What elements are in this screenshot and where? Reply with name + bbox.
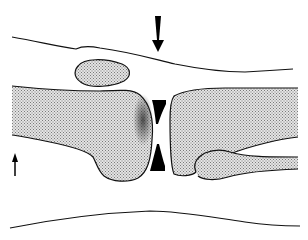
femur: [12, 86, 153, 181]
fibula: [195, 150, 298, 179]
cartilage-damage: [133, 94, 153, 146]
patella: [75, 60, 129, 87]
skin-outline-bottom: [10, 211, 300, 228]
force-arrow-up: [12, 153, 18, 176]
knee-diagram: [0, 0, 308, 240]
skin-outline-top: [12, 37, 293, 72]
force-arrow-down: [152, 16, 164, 52]
